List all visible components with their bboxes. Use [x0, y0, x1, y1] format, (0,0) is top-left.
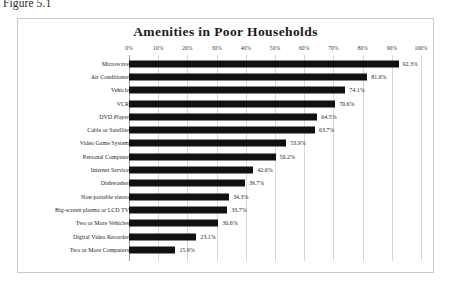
figure-caption: Figure 5.1	[3, 0, 51, 9]
bar-value-label: 63.7%	[319, 127, 334, 133]
category-label: Two or More Computers	[70, 247, 129, 253]
category-label: DVD Player	[99, 114, 129, 120]
x-tick-label: 60%	[299, 45, 309, 51]
chart-row: Microwave92.3%	[18, 57, 435, 70]
category-label: VCR	[117, 101, 129, 107]
chart-title: Amenities in Poor Households	[18, 24, 433, 40]
bar	[129, 180, 245, 187]
bar-value-label: 70.6%	[339, 101, 354, 107]
chart-row: Cable or Satellite63.7%	[18, 124, 435, 137]
chart-row: Video Game System53.9%	[18, 137, 435, 150]
category-label: Non-portable stereo	[81, 194, 129, 200]
bar	[129, 220, 218, 227]
bar-value-label: 92.3%	[403, 61, 418, 67]
bar	[129, 140, 286, 147]
bar	[129, 167, 253, 174]
category-label: Digital Video Recorder	[73, 234, 129, 240]
x-tick-label: 30%	[211, 45, 221, 51]
x-tick-label: 50%	[270, 45, 280, 51]
bar	[129, 206, 227, 213]
x-tick-label: 90%	[387, 45, 397, 51]
x-tick-label: 0%	[125, 45, 132, 51]
bar	[129, 193, 229, 200]
chart-row: Big-screen plasma or LCD TV33.7%	[18, 203, 435, 216]
bar-value-label: 53.9%	[290, 140, 305, 146]
bar-value-label: 81.6%	[371, 74, 386, 80]
bar	[129, 113, 317, 120]
chart-row: Dishwasher39.7%	[18, 177, 435, 190]
x-tick-label: 10%	[153, 45, 163, 51]
bar	[129, 100, 335, 107]
chart-row: Internet Service42.6%	[18, 163, 435, 176]
chart-row: Non-portable stereo34.3%	[18, 190, 435, 203]
bar-value-label: 30.6%	[222, 220, 237, 226]
category-label: Video Game System	[80, 140, 129, 146]
category-label: Two or More Vehicles	[76, 220, 129, 226]
category-label: Big-screen plasma or LCD TV	[55, 207, 129, 213]
x-tick-label: 40%	[241, 45, 251, 51]
chart-frame: Amenities in Poor Households 0%10%20%30%…	[17, 18, 434, 273]
x-tick-label: 100%	[414, 45, 427, 51]
bar-value-label: 34.3%	[233, 194, 248, 200]
bar	[129, 73, 367, 80]
chart-row: Personal Computer50.2%	[18, 150, 435, 163]
bar-value-label: 15.9%	[179, 247, 194, 253]
bar	[129, 246, 175, 253]
chart-row: Digital Video Recorder23.1%	[18, 230, 435, 243]
bar-value-label: 42.6%	[257, 167, 272, 173]
bar-value-label: 33.7%	[231, 207, 246, 213]
x-tick-label: 20%	[182, 45, 192, 51]
category-label: Personal Computer	[83, 154, 129, 160]
x-tick-label: 70%	[328, 45, 338, 51]
chart-row: DVD Player64.5%	[18, 110, 435, 123]
category-label: Dishwasher	[101, 180, 129, 186]
bar	[129, 60, 399, 67]
bar-value-label: 74.1%	[349, 87, 364, 93]
chart-row: VCR70.6%	[18, 97, 435, 110]
bar-value-label: 39.7%	[249, 180, 264, 186]
category-label: Microwave	[102, 61, 129, 67]
chart-row: Two or More Vehicles30.6%	[18, 217, 435, 230]
bar	[129, 127, 315, 134]
bar-value-label: 50.2%	[280, 154, 295, 160]
category-label: Cable or Satellite	[87, 127, 129, 133]
category-label: Vehicle	[111, 87, 129, 93]
bar	[129, 87, 345, 94]
chart-row: Vehicle74.1%	[18, 84, 435, 97]
bar-value-label: 23.1%	[200, 234, 215, 240]
bar	[129, 233, 196, 240]
bar	[129, 153, 276, 160]
chart-row: Two or More Computers15.9%	[18, 243, 435, 256]
x-axis-tick-labels: 0%10%20%30%40%50%60%70%80%90%100%	[18, 45, 435, 55]
category-label: Internet Service	[91, 167, 129, 173]
x-tick-label: 80%	[357, 45, 367, 51]
bar-value-label: 64.5%	[321, 114, 336, 120]
chart-row: Air Conditioner81.6%	[18, 70, 435, 83]
category-label: Air Conditioner	[91, 74, 129, 80]
plot-area: Microwave92.3%Air Conditioner81.6%Vehicl…	[18, 55, 435, 267]
